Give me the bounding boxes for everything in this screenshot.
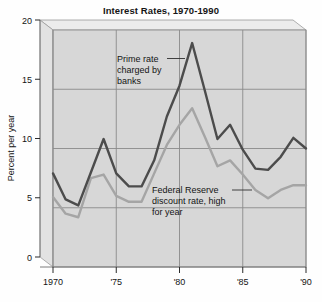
interest-rates-chart: Interest Rates, 1970-1990: [0, 0, 322, 302]
x-tick-label-90: '90: [300, 277, 312, 287]
y-tick-label-15: 15: [22, 75, 32, 85]
chart-plot-area: 20 15 10 5 0 1970 '75 '80 '85 '90 Percen…: [0, 0, 322, 302]
x-tick-label-1970: 1970: [43, 277, 63, 287]
box-left-face: [40, 20, 53, 267]
prime-rate-annotation-line-1: Prime rate: [117, 54, 159, 64]
y-axis: [35, 20, 40, 257]
fed-discount-annotation-line-2: discount rate, high: [152, 196, 226, 206]
x-tick-label-80: '80: [174, 277, 186, 287]
x-tick-label-75: '75: [110, 277, 122, 287]
prime-rate-annotation-line-2: charged by: [117, 65, 162, 75]
fed-discount-annotation-line-1: Federal Reserve: [152, 185, 219, 195]
fed-discount-annotation-line-3: for year: [152, 207, 183, 217]
y-tick-label-5: 5: [27, 193, 32, 203]
y-axis-title: Percent per year: [6, 115, 16, 182]
prime-rate-annotation-line-3: banks: [117, 76, 142, 86]
x-tick-label-85: '85: [237, 277, 249, 287]
y-tick-label-0: 0: [27, 253, 32, 263]
x-axis: [40, 267, 306, 273]
y-tick-label-10: 10: [22, 134, 32, 144]
y-tick-label-20: 20: [22, 16, 32, 26]
box-top-face: [40, 20, 306, 30]
